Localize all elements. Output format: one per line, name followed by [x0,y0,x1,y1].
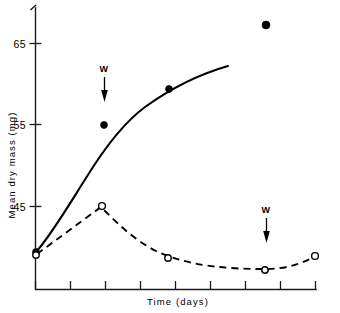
data-point-watered-2 [166,86,173,93]
x-axis-ticks [36,281,316,290]
data-point-unwatered-2 [165,255,171,261]
series-watered-line [36,66,228,252]
data-point-unwatered-0 [33,252,39,258]
annotation-label-w-2: W [262,205,271,215]
chart-figure: 65 55 45 [0,0,340,313]
series-watered [33,21,270,255]
data-point-unwatered-4 [312,253,319,260]
data-point-watered-3 [262,21,270,29]
series-unwatered [33,203,319,274]
axis-spines [31,6,316,290]
data-point-unwatered-1 [99,203,106,210]
annotation-watering-2: W [262,205,271,243]
y-tick-label-high: 65 [14,38,26,50]
annotation-arrow-head-1 [101,90,108,102]
x-axis-title: Time (days) [147,296,209,307]
data-point-unwatered-3 [262,267,268,273]
y-axis-title: Mean dry mass (mg) [6,112,17,219]
annotation-arrow-head-2 [263,231,270,243]
annotation-label-w-1: W [100,64,109,74]
data-point-watered-1 [101,122,108,129]
chart-canvas: 65 55 45 [0,0,340,313]
series-unwatered-line [37,207,314,269]
annotation-watering-1: W [100,64,109,102]
axis-spine-path [36,8,317,290]
